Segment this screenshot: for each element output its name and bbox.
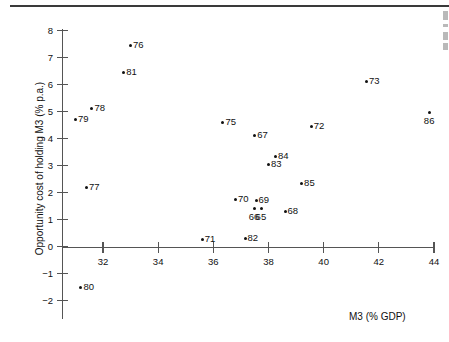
data-point-label: 67 — [257, 129, 268, 140]
data-point — [365, 80, 368, 83]
x-tick-label: 32 — [88, 256, 118, 267]
scatter-plot-figure: 876543210−1−2 32343638404244 76817378798… — [0, 0, 449, 342]
data-point — [255, 199, 258, 202]
data-point-label: 72 — [314, 120, 325, 131]
y-axis-title: Opportunity cost of holding M3 (% p.a.) — [34, 44, 45, 294]
data-point — [428, 111, 431, 114]
y-tick-label: −2 — [27, 295, 53, 306]
data-point-label: 70 — [238, 193, 249, 204]
y-tick-mark — [57, 84, 68, 85]
data-point — [300, 182, 303, 185]
data-point — [122, 71, 125, 74]
y-axis-line — [62, 29, 63, 319]
y-tick-mark — [57, 246, 68, 247]
data-point — [310, 125, 313, 128]
x-axis-title: M3 (% GDP) — [349, 311, 406, 322]
data-point-label: 75 — [225, 116, 236, 127]
data-point-label: 71 — [205, 233, 216, 244]
data-point — [129, 44, 132, 47]
x-tick-mark — [158, 242, 159, 253]
data-point-label: 68 — [288, 205, 299, 216]
x-tick-mark — [323, 242, 324, 253]
data-point-label: 86 — [424, 115, 435, 126]
data-point-label: 73 — [369, 75, 380, 86]
data-point — [253, 134, 256, 137]
data-point — [253, 207, 256, 210]
y-tick-mark — [57, 219, 68, 220]
data-point-label: 82 — [248, 232, 259, 243]
data-point-label: 79 — [78, 113, 89, 124]
data-point-label: 76 — [133, 39, 144, 50]
data-point — [74, 118, 77, 121]
data-point — [90, 107, 93, 110]
data-point — [234, 198, 237, 201]
x-tick-mark — [378, 242, 379, 253]
y-tick-label: 8 — [27, 25, 53, 36]
data-point — [244, 237, 247, 240]
data-point-label: 78 — [94, 102, 105, 113]
plot-area: 876543210−1−2 32343638404244 76817378798… — [0, 0, 449, 342]
y-tick-mark — [57, 192, 68, 193]
x-tick-label: 40 — [309, 256, 339, 267]
y-tick-mark — [57, 138, 68, 139]
y-tick-mark — [57, 111, 68, 112]
data-point-label: 80 — [83, 281, 94, 292]
y-tick-mark — [57, 30, 68, 31]
x-tick-label: 38 — [254, 256, 284, 267]
data-point — [201, 238, 204, 241]
data-point — [221, 121, 224, 124]
x-tick-label: 34 — [143, 256, 173, 267]
data-point-label: 65 — [256, 211, 267, 222]
x-tick-mark — [102, 242, 103, 253]
x-tick-label: 42 — [364, 256, 394, 267]
data-point-label: 85 — [304, 177, 315, 188]
x-tick-label: 44 — [419, 256, 449, 267]
x-tick-label: 36 — [198, 256, 228, 267]
y-tick-mark — [57, 57, 68, 58]
data-point-label: 81 — [126, 66, 137, 77]
data-point — [85, 186, 88, 189]
y-tick-mark — [57, 300, 68, 301]
data-point — [284, 210, 287, 213]
x-tick-mark — [268, 242, 269, 253]
data-point — [260, 207, 263, 210]
x-tick-mark — [433, 242, 434, 253]
data-point-label: 77 — [89, 181, 100, 192]
y-tick-mark — [57, 165, 68, 166]
data-point — [79, 286, 82, 289]
data-point-label: 69 — [259, 194, 270, 205]
y-tick-mark — [57, 273, 68, 274]
data-point — [267, 163, 270, 166]
data-point-label: 83 — [271, 158, 282, 169]
